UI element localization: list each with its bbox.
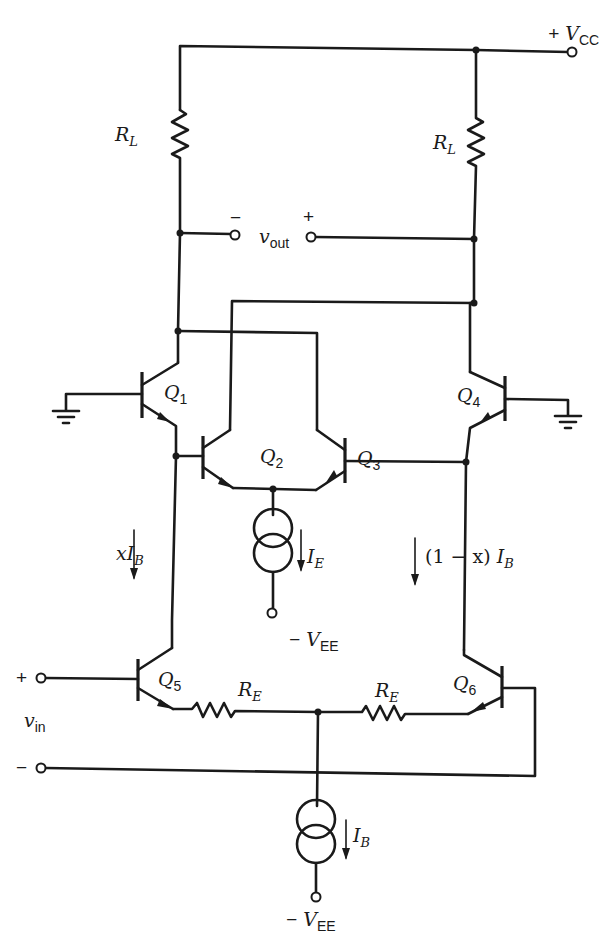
label-q2: Q2 bbox=[260, 447, 283, 470]
transistor-q5 bbox=[37, 648, 174, 709]
transistor-q4 bbox=[466, 372, 581, 462]
label-vout: vout bbox=[259, 227, 289, 250]
current-source-ib bbox=[297, 800, 350, 902]
transistor-q2 bbox=[176, 430, 233, 488]
vout-minus-terminal bbox=[231, 231, 240, 240]
label-ib: IB bbox=[353, 826, 370, 849]
resistor-re-right bbox=[318, 706, 468, 720]
label-ie: IE bbox=[307, 547, 324, 570]
vin-minus-terminal bbox=[37, 764, 46, 773]
label-vout-minus: − bbox=[230, 208, 241, 227]
vee-terminal-top bbox=[268, 609, 277, 618]
label-q1: Q1 bbox=[164, 383, 187, 406]
label-right-branch-current: (1 − x) IB bbox=[425, 547, 514, 570]
resistor-rl-left bbox=[172, 110, 188, 233]
vcc-terminal bbox=[568, 48, 577, 57]
label-left-branch-current: xIB bbox=[116, 544, 144, 567]
label-vcc: + VCC bbox=[548, 24, 599, 47]
label-vee-bottom: − VEE bbox=[286, 910, 336, 933]
vcc-rail bbox=[180, 46, 577, 110]
current-source-ie bbox=[254, 489, 305, 618]
vout-plus-terminal bbox=[307, 233, 316, 242]
vee-terminal-bottom bbox=[312, 893, 321, 902]
label-vin-plus: + bbox=[16, 668, 27, 687]
resistor-re-left bbox=[173, 703, 318, 717]
label-q6: Q6 bbox=[453, 674, 476, 697]
label-vin-minus: − bbox=[16, 758, 27, 777]
label-q4: Q4 bbox=[457, 386, 480, 409]
label-rl-left: RL bbox=[115, 125, 138, 148]
label-q5: Q5 bbox=[158, 670, 181, 693]
label-rl-right: RL bbox=[433, 133, 456, 156]
label-vee-top: − VEE bbox=[289, 630, 339, 653]
label-q3: Q3 bbox=[357, 449, 380, 472]
circuit-schematic bbox=[0, 0, 615, 940]
label-vout-plus: + bbox=[303, 207, 314, 226]
label-re-left: RE bbox=[238, 680, 262, 703]
vout-port bbox=[177, 230, 478, 243]
vin-plus-terminal bbox=[37, 674, 46, 683]
label-re-right: RE bbox=[375, 681, 399, 704]
resistor-rl-right bbox=[468, 50, 484, 239]
transistor-q1 bbox=[53, 362, 178, 456]
label-vin: vin bbox=[24, 711, 46, 734]
current-arrow-right bbox=[411, 538, 419, 586]
transistor-q3 bbox=[316, 430, 466, 490]
